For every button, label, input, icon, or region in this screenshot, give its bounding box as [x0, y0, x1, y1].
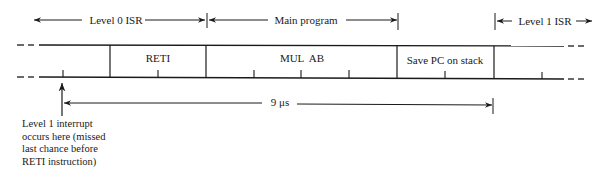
instruction-save-pc: Save PC on stack: [407, 54, 484, 66]
annotation-line: last chance before: [22, 143, 132, 156]
phase-level0-isr: Level 0 ISR: [34, 14, 205, 26]
interval-9us: 9 μs: [64, 96, 493, 114]
annotation-line: Level 1 interrupt: [22, 118, 132, 131]
phase-label: Level 1 ISR: [518, 15, 572, 27]
interrupt-annotation: Level 1 interrupt occurs here (missed la…: [22, 118, 132, 168]
phase-level1-isr: Level 1 ISR: [497, 15, 592, 27]
phase-main-program: Main program: [209, 14, 397, 26]
phase-label: Level 0 ISR: [89, 14, 143, 26]
instruction-reti: RETI: [146, 52, 171, 64]
interval-label: 9 μs: [271, 96, 289, 108]
instruction-mul-ab: MUL AB: [280, 52, 324, 64]
phase-label: Main program: [274, 14, 338, 26]
annotation-line: occurs here (missed: [22, 131, 132, 144]
annotation-line: RETI instruction): [22, 156, 132, 169]
